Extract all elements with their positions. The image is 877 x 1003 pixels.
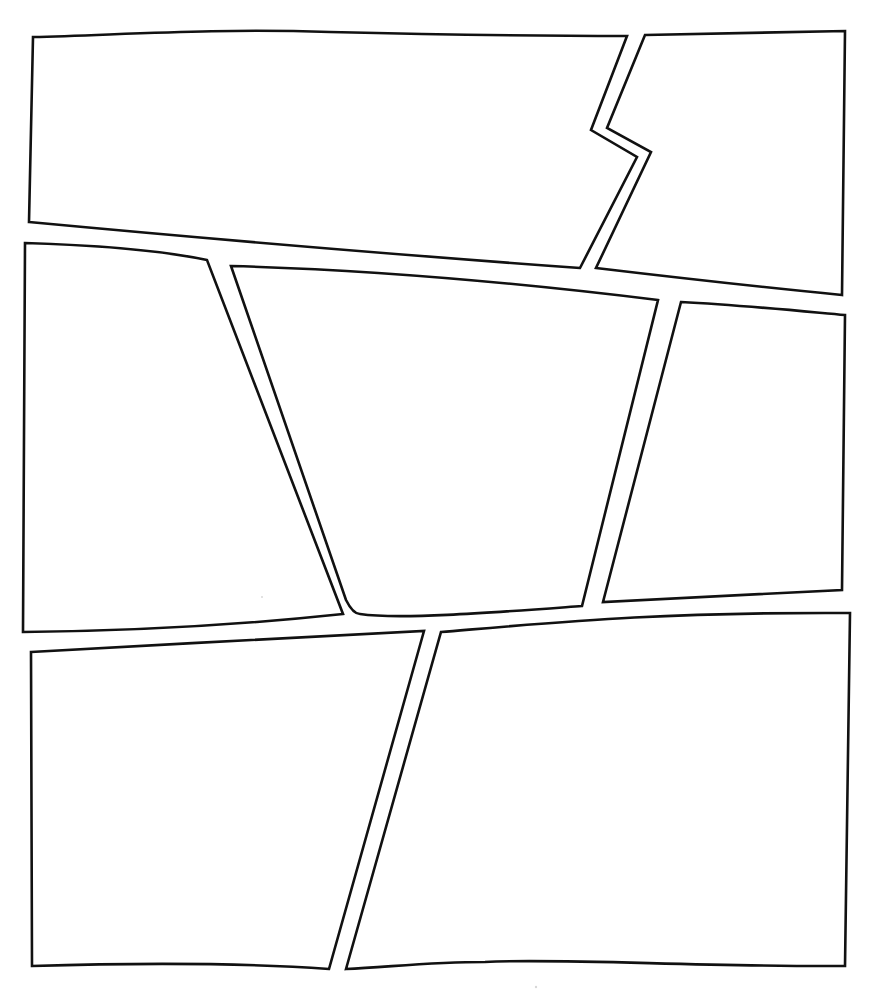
panel-1[interactable] [29,31,637,268]
scan-speck [535,986,537,988]
comic-page [0,0,877,1003]
scan-speck [261,596,263,598]
panel-layout [0,0,877,1003]
panel-7[interactable] [346,613,850,969]
